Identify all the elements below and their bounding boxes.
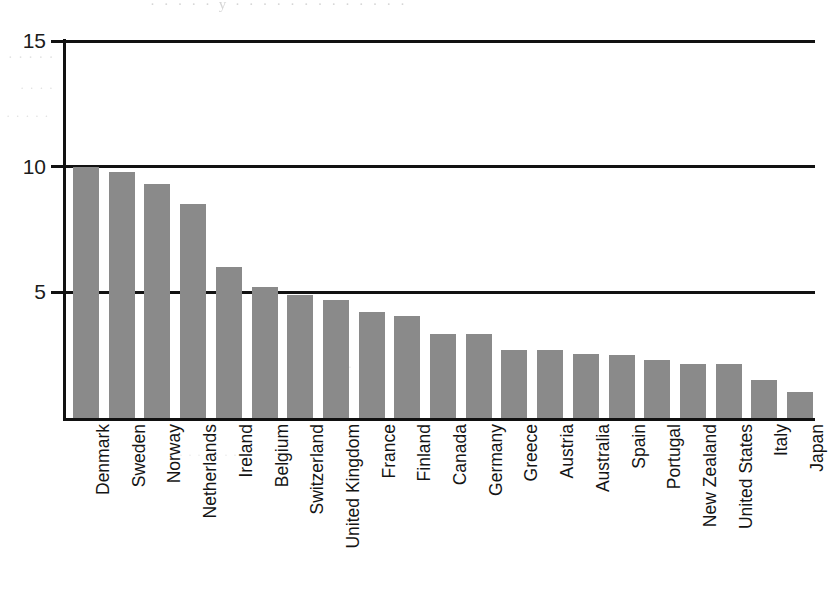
bar-japan bbox=[787, 392, 813, 418]
x-axis-label-sweden: Sweden bbox=[129, 424, 147, 604]
bar-france bbox=[359, 312, 385, 418]
bar-germany bbox=[466, 334, 492, 418]
bar-netherlands bbox=[180, 204, 206, 418]
x-axis-label-text: Australia bbox=[595, 424, 613, 604]
y-tick-label-10: 10 bbox=[23, 156, 46, 177]
x-axis-label-germany: Germany bbox=[486, 424, 504, 604]
bar-switzerland bbox=[287, 295, 313, 418]
x-axis-label-text: Netherlands bbox=[202, 424, 220, 604]
x-axis-label-text: Switzerland bbox=[309, 424, 327, 604]
bar-austria bbox=[537, 350, 563, 418]
x-axis-label-greece: Greece bbox=[521, 424, 539, 604]
x-axis-label-text: Portugal bbox=[666, 424, 684, 604]
x-axis-label-japan: Japan bbox=[807, 424, 825, 604]
x-axis-label-france: France bbox=[379, 424, 397, 604]
plot-area bbox=[63, 41, 815, 418]
x-axis-label-spain: Spain bbox=[629, 424, 647, 604]
x-axis-label-text: Ireland bbox=[238, 424, 256, 604]
x-axis-label-australia: Australia bbox=[593, 424, 611, 604]
x-axis-label-new-zealand: New Zealand bbox=[700, 424, 718, 604]
x-axis-label-text: Austria bbox=[559, 424, 577, 604]
x-axis-label-text: Norway bbox=[166, 424, 184, 604]
bar-new-zealand bbox=[680, 364, 706, 418]
x-axis-label-text: New Zealand bbox=[702, 424, 720, 604]
x-axis-label-text: France bbox=[381, 424, 399, 604]
y-tick-label-5: 5 bbox=[34, 281, 46, 302]
bar-portugal bbox=[644, 360, 670, 418]
x-axis-label-text: United Kingdom bbox=[345, 424, 363, 604]
bar-finland bbox=[394, 316, 420, 418]
bar-canada bbox=[430, 334, 456, 418]
x-axis-label-text: Finland bbox=[416, 424, 434, 604]
x-axis-label-canada: Canada bbox=[450, 424, 468, 604]
bar-belgium bbox=[252, 287, 278, 418]
x-axis-label-norway: Norway bbox=[164, 424, 182, 604]
x-axis-label-united-kingdom: United Kingdom bbox=[343, 424, 361, 604]
bar-australia bbox=[573, 354, 599, 418]
bar-spain bbox=[609, 355, 635, 418]
bar-ireland bbox=[216, 267, 242, 418]
x-axis-label-belgium: Belgium bbox=[272, 424, 290, 604]
bar-united-states bbox=[716, 364, 742, 418]
x-axis-label-united-states: United States bbox=[736, 424, 754, 604]
x-axis-label-denmark: Denmark bbox=[93, 424, 111, 604]
x-axis-labels: DenmarkSwedenNorwayNetherlandsIrelandBel… bbox=[63, 424, 815, 604]
x-axis-label-text: Japan bbox=[809, 424, 827, 604]
x-axis-label-austria: Austria bbox=[557, 424, 575, 604]
bar-greece bbox=[501, 350, 527, 418]
x-axis-label-italy: Italy bbox=[771, 424, 789, 604]
x-axis-label-text: Spain bbox=[631, 424, 649, 604]
x-axis-label-netherlands: Netherlands bbox=[200, 424, 218, 604]
x-axis-label-ireland: Ireland bbox=[236, 424, 254, 604]
bar-united-kingdom bbox=[323, 300, 349, 418]
x-axis-label-text: Denmark bbox=[95, 424, 113, 604]
x-axis-label-text: Sweden bbox=[131, 424, 149, 604]
x-axis-label-text: Canada bbox=[452, 424, 470, 604]
x-axis-label-finland: Finland bbox=[414, 424, 432, 604]
x-axis-label-portugal: Portugal bbox=[664, 424, 682, 604]
x-axis-label-text: United States bbox=[738, 424, 756, 604]
bar-sweden bbox=[109, 172, 135, 418]
x-axis-label-text: Italy bbox=[773, 424, 791, 604]
x-axis-label-switzerland: Switzerland bbox=[307, 424, 325, 604]
bar-italy bbox=[751, 380, 777, 418]
bar-chart: 51015 DenmarkSwedenNorwayNetherlandsIrel… bbox=[0, 0, 839, 607]
y-tick-label-15: 15 bbox=[23, 30, 46, 51]
x-axis-line bbox=[63, 418, 815, 421]
bar-denmark bbox=[73, 167, 99, 418]
x-axis-label-text: Belgium bbox=[274, 424, 292, 604]
x-axis-label-text: Greece bbox=[523, 424, 541, 604]
bar-norway bbox=[144, 184, 170, 418]
x-axis-label-text: Germany bbox=[488, 424, 506, 604]
